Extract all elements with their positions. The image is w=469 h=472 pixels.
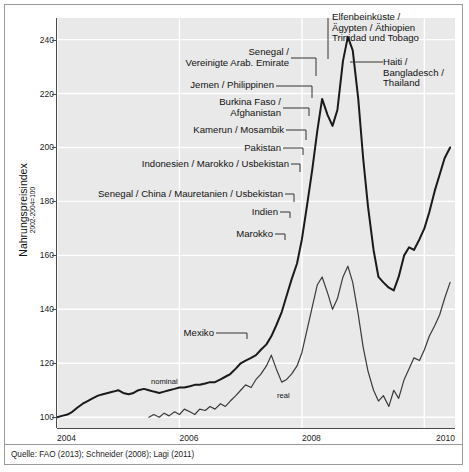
y-tick-label: 200 [2, 143, 54, 152]
annotation-elfenbeinkueste: Elfenbeinküste / Ägypten / Äthiopien Tri… [332, 12, 464, 44]
annotation-mexiko: Mexiko [57, 328, 214, 339]
annotation-marokko: Marokko [57, 229, 273, 240]
y-tick-label: 220 [2, 90, 54, 99]
source-divider [5, 444, 462, 445]
food-price-index-figure: Nahrungspreisindex 2002-2004=100 1001201… [0, 0, 469, 472]
annotation-senegal-vae: Senegal / Vereinigte Arab. Emirate [57, 47, 289, 68]
y-tick-label: 100 [2, 413, 54, 422]
annotation-senegal-china-mauretanien-usbekistan: Senegal / China / Mauretanien / Usbekist… [22, 189, 283, 200]
series-label-real: real [277, 391, 290, 400]
source-note: Quelle: FAO (2013); Schneider (2008); La… [11, 450, 194, 459]
x-axis-spine [57, 428, 455, 429]
y-tick-label: 140 [2, 305, 54, 314]
x-tick-label: 2008 [302, 433, 321, 443]
y-tick-label: 240 [2, 36, 54, 45]
annotation-indien: Indien [57, 207, 278, 218]
series-label-nominal: nominal [151, 377, 178, 386]
annotation-indonesien-marokko-usbekistan: Indonesien / Marokko / Usbekistan [40, 159, 289, 170]
y-tick-label: 120 [2, 359, 54, 368]
x-tick-label: 2004 [57, 433, 76, 443]
annotation-burkina-afghanistan: Burkina Faso / Afghanistan [57, 97, 281, 118]
x-tick-label: 2006 [179, 433, 198, 443]
x-tick-label: 2010 [436, 433, 455, 443]
annotation-jemen-philippinen: Jemen / Philippinen [57, 80, 274, 91]
y-tick-label: 160 [2, 251, 54, 260]
y-axis-ticks: 100120140160180200220240 [0, 0, 54, 472]
annotation-pakistan: Pakistan [57, 143, 281, 154]
annotation-kamerun-mosambik: Kamerun / Mosambik [57, 125, 284, 136]
annotation-haiti: Haiti / Bangladesch / Thailand [383, 57, 467, 89]
